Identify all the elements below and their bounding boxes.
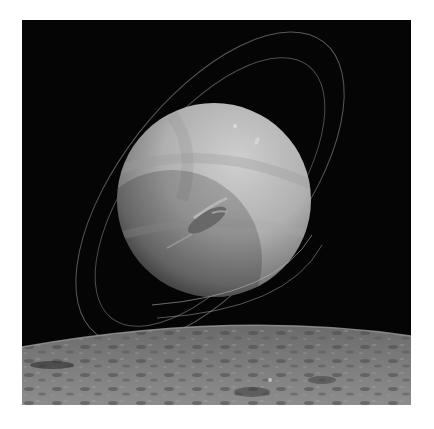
moon-surface	[22, 325, 411, 405]
space-scene	[22, 20, 411, 405]
planet	[82, 103, 312, 350]
photo-frame: Grayscale view of the ringed planet Nept…	[22, 20, 411, 405]
